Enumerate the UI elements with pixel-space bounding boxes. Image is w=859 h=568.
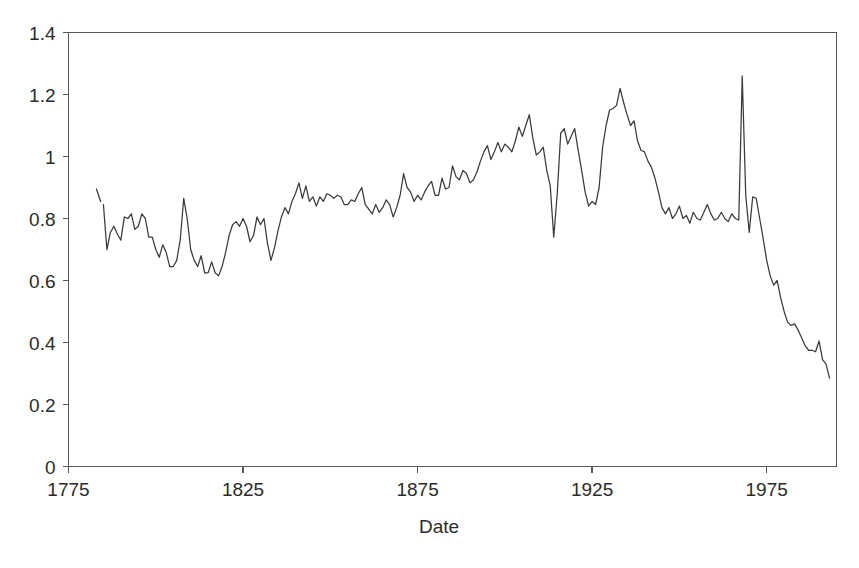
x-tick-label: 1925 — [571, 479, 613, 500]
data-series-group — [96, 76, 829, 378]
y-axis-tick-labels: 00.20.40.60.811.21.4 — [29, 23, 56, 478]
chart-container: 00.20.40.60.811.21.4 1775182518751925197… — [0, 0, 859, 568]
x-tick-label: 1975 — [746, 479, 788, 500]
x-axis-tick-marks — [69, 467, 767, 473]
y-tick-label: 1.4 — [29, 23, 56, 44]
y-tick-label: 0.2 — [29, 395, 55, 416]
x-tick-label: 1825 — [222, 479, 264, 500]
x-tick-label: 1775 — [47, 479, 89, 500]
y-tick-label: 0.6 — [29, 271, 55, 292]
line-chart: 00.20.40.60.811.21.4 1775182518751925197… — [0, 0, 859, 568]
y-tick-label: 0.8 — [29, 209, 55, 230]
x-axis-tick-labels: 17751825187519251975 — [47, 479, 787, 500]
x-tick-label: 1875 — [396, 479, 438, 500]
x-axis-title: Date — [419, 516, 459, 537]
y-axis-tick-marks — [63, 33, 69, 467]
data-line-lead-segment — [96, 189, 100, 201]
y-tick-label: 1.2 — [29, 85, 55, 106]
y-tick-label: 0.4 — [29, 333, 56, 354]
y-tick-label: 1 — [45, 147, 56, 168]
axis-frame — [69, 33, 837, 467]
y-tick-label: 0 — [45, 457, 56, 478]
data-line-main — [103, 76, 829, 378]
